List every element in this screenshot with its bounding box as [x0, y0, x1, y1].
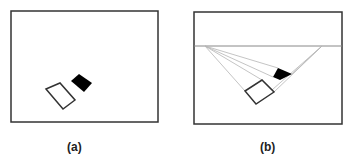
- panel-b-filled-quad: [273, 68, 292, 80]
- perspective-line: [205, 46, 278, 68]
- panel-a: [11, 11, 158, 122]
- perspective-line: [205, 46, 273, 77]
- perspective-line: [205, 46, 245, 91]
- panel-a-frame: [11, 11, 158, 122]
- panel-a-outline-quad: [46, 83, 75, 109]
- panel-b: [194, 12, 342, 124]
- panel-b-caption: (b): [260, 140, 275, 154]
- perspective-line: [292, 46, 322, 74]
- panel-a-caption: (a): [67, 140, 82, 154]
- panel-a-filled-quad: [71, 74, 92, 92]
- perspective-line: [205, 46, 262, 80]
- figure-canvas: [0, 0, 349, 164]
- panel-b-frame: [194, 12, 342, 124]
- panel-b-outline-quad: [245, 80, 274, 104]
